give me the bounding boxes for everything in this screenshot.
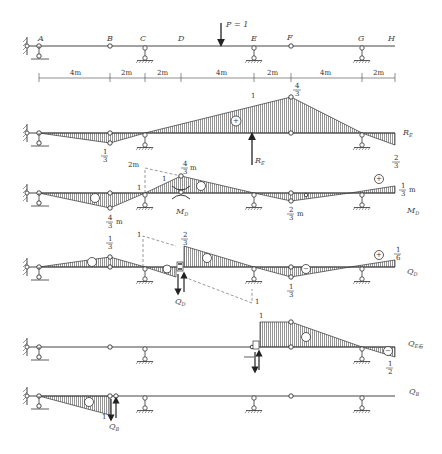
influence-line-qb: 1 QB QB xyxy=(23,387,420,432)
influence-line-md: + 2m 1 1 4 3 m 4 3 m 2 3 m 1 3 m MD MD xyxy=(23,160,419,230)
plus-sign-icon xyxy=(197,182,206,191)
md-value-c: 1 xyxy=(137,184,141,192)
svg-text:+: + xyxy=(376,175,382,183)
span-5-label: 2m xyxy=(267,69,278,77)
qd-value-f-num: 1 xyxy=(289,283,293,291)
svg-text:−: − xyxy=(385,347,391,355)
span-4-label: 4m xyxy=(216,69,227,77)
minus-sign-icon xyxy=(163,265,171,273)
md-under-label: MD xyxy=(175,207,188,217)
qd-under-label: QD xyxy=(175,297,186,307)
point-g-label: G xyxy=(358,34,365,43)
md-slope-1: 1 xyxy=(162,175,166,183)
qe-value-h-den: 2 xyxy=(388,368,392,376)
md-value-b-den: 3 xyxy=(108,222,112,230)
md-value-f-den: 3 xyxy=(289,214,293,222)
qb-under-label: QB xyxy=(109,422,120,432)
md-value-d-num: 4 xyxy=(183,160,188,168)
shear-release-icon xyxy=(253,341,259,349)
md-value-h-den: 3 xyxy=(401,190,405,198)
qd-label: QD xyxy=(407,267,418,277)
influence-line-diagram: A B C D E F G H P = 1 4m 2m 2m 4m 2m 4m … xyxy=(0,0,442,454)
svg-text:m: m xyxy=(297,210,304,218)
span-2-label: 2m xyxy=(121,69,132,77)
qd-value-d-num: 2 xyxy=(183,231,187,239)
shear-release-icon xyxy=(177,262,183,271)
re-value-b-den: 3 xyxy=(103,156,107,164)
influence-line-qe-right: − 1 1 2 QE右 xyxy=(23,312,424,376)
qe-label: QE右 xyxy=(408,339,424,349)
svg-text:+: + xyxy=(233,117,239,125)
md-dashed-2m: 2m xyxy=(128,161,139,169)
qb-value-b: 1 xyxy=(102,413,106,421)
span-6-label: 4m xyxy=(320,69,331,77)
point-h-label: H xyxy=(387,34,396,43)
point-c-label: C xyxy=(140,34,146,43)
point-e-label: E xyxy=(250,34,257,43)
re-value-1: 1 xyxy=(251,92,255,100)
md-value-h-num: 1 xyxy=(401,182,405,190)
re-value-f-num: 4 xyxy=(295,82,300,90)
influence-line-qd: − + 1 3 1 2 3 1 1 3 1 6 QD QD xyxy=(23,231,418,307)
span-3-label: 2m xyxy=(157,69,168,77)
point-d-label: D xyxy=(177,34,185,43)
minus-sign-icon xyxy=(91,194,100,203)
qd-value-h-num: 1 xyxy=(396,246,400,254)
md-label: MD xyxy=(406,206,419,216)
qd-value-b-num: 1 xyxy=(108,235,112,243)
plus-sign-icon xyxy=(88,258,97,267)
re-value-h-den: 3 xyxy=(394,162,398,170)
qd-dashed-top: 1 xyxy=(137,231,141,239)
svg-text:m: m xyxy=(116,218,123,226)
qe-value-e: 1 xyxy=(259,312,263,320)
qd-dashed-bottom: 1 xyxy=(255,298,259,306)
qe-value-h-num: 1 xyxy=(388,360,392,368)
svg-text:+: + xyxy=(376,251,382,259)
re-value-h-num: 2 xyxy=(394,154,398,162)
qd-value-f-den: 3 xyxy=(289,291,293,299)
re-value-f-den: 3 xyxy=(295,90,299,98)
point-a-label: A xyxy=(37,34,44,43)
minus-sign-icon xyxy=(85,398,94,407)
svg-text:−: − xyxy=(303,265,309,273)
re-arrow-label: RE xyxy=(254,156,265,166)
plus-sign-icon xyxy=(203,254,212,263)
dimension-line: 4m 2m 2m 4m 2m 4m 2m xyxy=(39,69,395,82)
point-b-label: B xyxy=(106,34,113,43)
influence-line-re: + RE 1 4 3 1 3 2 3 RE xyxy=(23,82,413,170)
svg-text:m: m xyxy=(190,164,197,172)
md-value-d-den: 3 xyxy=(183,168,187,176)
md-value-b-num: 4 xyxy=(108,214,113,222)
svg-text:m: m xyxy=(409,186,416,194)
span-1-label: 4m xyxy=(70,69,81,77)
qd-value-d-den: 3 xyxy=(183,239,187,247)
load-label: P = 1 xyxy=(225,20,248,29)
re-value-b-num: 1 xyxy=(103,148,107,156)
qd-value-b-den: 3 xyxy=(108,243,112,251)
md-value-f-num: 2 xyxy=(289,206,293,214)
span-7-label: 2m xyxy=(373,69,384,77)
beam-structure: A B C D E F G H P = 1 xyxy=(23,20,396,63)
re-label: RE xyxy=(402,128,413,138)
qd-value-h-den: 6 xyxy=(396,254,401,262)
qb-label: QB xyxy=(409,387,420,397)
plus-sign-icon xyxy=(302,333,311,342)
point-f-label: F xyxy=(286,33,293,42)
